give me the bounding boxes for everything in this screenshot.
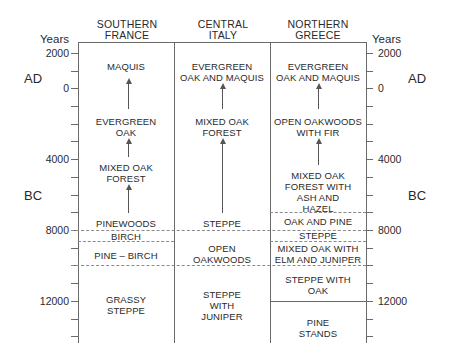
years-label-left: Years [40, 33, 69, 45]
ng-steppe: STEPPE [270, 230, 366, 241]
tick-mark [366, 336, 373, 337]
header-line: ITALY [173, 30, 273, 41]
sf-birch: BIRCH [78, 231, 174, 242]
tick-mark [71, 301, 78, 302]
era-bc-left: BC [24, 188, 42, 203]
ng-oak-and-pine: OAK AND PINE [270, 216, 366, 227]
sf-pine-birch: PINE – BIRCH [78, 250, 174, 261]
arrow-up-icon [318, 88, 319, 109]
arrow-up-icon [222, 88, 223, 109]
tick-mark [71, 71, 78, 72]
cell-text: OPEN OAKWOODS [270, 116, 366, 127]
cell-text: GRASSY [78, 294, 174, 305]
tick-mark [71, 248, 78, 249]
ng-boundary-12000 [270, 301, 366, 302]
ng-mixed-oak-ash-hazel: MIXED OAK FOREST WITH ASH AND HAZEL [270, 170, 366, 214]
top-border [78, 42, 366, 43]
tick-mark [366, 124, 373, 125]
tick-label-2000-right: 2000 [378, 47, 401, 59]
ng-boundary-steppe [270, 241, 366, 242]
cell-text: PINE – BIRCH [78, 250, 174, 261]
tick-mark [366, 106, 373, 107]
ci-steppe: STEPPE [174, 218, 270, 229]
tick-mark [366, 88, 373, 89]
column-header-southern-france: SOUTHERN FRANCE [77, 19, 177, 41]
cell-text: BIRCH [78, 231, 174, 242]
tick-mark [366, 177, 373, 178]
tick-label-4000-left: 4000 [46, 153, 69, 165]
cell-text: JUNIPER [174, 311, 270, 322]
ci-steppe-with-juniper: STEPPE WITH JUNIPER [174, 289, 270, 322]
cell-text: HAZEL [270, 203, 366, 214]
cell-text: PINEWOODS [78, 218, 174, 229]
cell-text: EVERGREEN [174, 61, 270, 72]
cell-text: EVERGREEN [270, 61, 366, 72]
cell-text: STANDS [270, 328, 366, 339]
years-label-right: Years [372, 33, 401, 45]
tick-mark [366, 301, 373, 302]
tick-label-4000-right: 4000 [378, 153, 401, 165]
tick-mark [366, 141, 373, 142]
ng-pine-stands: PINE STANDS [270, 317, 366, 339]
cell-text: OAK AND PINE [270, 216, 366, 227]
arrow-up-icon [128, 83, 129, 109]
cell-text: OAK [78, 127, 174, 138]
cell-text: EVERGREEN [78, 116, 174, 127]
ng-open-oakwoods-fir: OPEN OAKWOODS WITH FIR [270, 116, 366, 138]
cell-text: STEPPE [78, 305, 174, 316]
era-bc-right: BC [408, 188, 426, 203]
sf-mixed-oak-forest: MIXED OAK FOREST [78, 162, 174, 184]
cell-text: WITH FIR [270, 127, 366, 138]
tick-label-0-left: 0 [63, 82, 69, 94]
header-line: FRANCE [77, 30, 177, 41]
tick-mark [71, 124, 78, 125]
sf-grassy-steppe: GRASSY STEPPE [78, 294, 174, 316]
ng-mixed-oak-elm-juniper: MIXED OAK WITH ELM AND JUNIPER [270, 243, 366, 265]
tick-mark [366, 230, 373, 231]
tick-mark [366, 212, 373, 213]
cell-text: PINE [270, 317, 366, 328]
cell-text: FOREST WITH [270, 181, 366, 192]
cell-text: OAK [270, 285, 366, 296]
tick-mark [366, 71, 373, 72]
column-header-northern-greece: NORTHERN GREECE [268, 19, 368, 41]
boundary-10000-dashed [71, 265, 366, 266]
tick-mark [366, 248, 373, 249]
tick-mark [71, 283, 78, 284]
tick-mark [71, 53, 78, 54]
cell-text: MIXED OAK [78, 162, 174, 173]
ng-evergreen-oak-maquis: EVERGREEN OAK AND MAQUIS [270, 61, 366, 83]
tick-label-8000-right: 8000 [378, 224, 401, 236]
ci-mixed-oak-forest: MIXED OAK FOREST [174, 116, 270, 138]
sf-pinewoods: PINEWOODS [78, 218, 174, 229]
cell-text: OPEN [174, 243, 270, 254]
tick-label-12000-left: 12000 [40, 295, 69, 307]
arrow-up-icon [318, 143, 319, 165]
tick-mark [366, 265, 373, 266]
tick-mark [366, 195, 373, 196]
sf-maquis: MAQUIS [78, 61, 174, 72]
tick-mark [366, 53, 373, 54]
tick-mark [71, 177, 78, 178]
cell-text: STEPPE [270, 230, 366, 241]
cell-text: MAQUIS [78, 61, 174, 72]
tick-mark [71, 159, 78, 160]
tick-mark [71, 195, 78, 196]
tick-mark [71, 88, 78, 89]
tick-label-8000-left: 8000 [46, 224, 69, 236]
arrow-up-icon [222, 143, 223, 213]
ng-steppe-with-oak: STEPPE WITH OAK [270, 274, 366, 296]
cell-text: STEPPE WITH [270, 274, 366, 285]
sf-evergreen-oak: EVERGREEN OAK [78, 116, 174, 138]
cell-text: STEPPE [174, 289, 270, 300]
cell-text: ELM AND JUNIPER [270, 254, 366, 265]
cell-text: OAK AND MAQUIS [174, 72, 270, 83]
tick-label-12000-right: 12000 [378, 295, 407, 307]
tick-mark [71, 106, 78, 107]
tick-label-2000-left: 2000 [46, 47, 69, 59]
tick-mark [71, 212, 78, 213]
column-header-central-italy: CENTRAL ITALY [173, 19, 273, 41]
cell-text: MIXED OAK WITH [270, 243, 366, 254]
cell-text: MIXED OAK [174, 116, 270, 127]
ci-evergreen-oak-maquis: EVERGREEN OAK AND MAQUIS [174, 61, 270, 83]
